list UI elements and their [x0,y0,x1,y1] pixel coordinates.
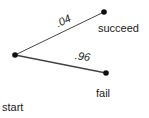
probability-fail: .96 [74,49,92,63]
label-start: start [2,101,23,113]
node-succeed [101,9,107,15]
node-start [12,52,18,58]
label-fail: fail [96,87,110,99]
label-succeed: succeed [98,22,139,34]
probability-tree-diagram: .04 .96 succeed fail start [0,0,149,118]
node-fail [103,70,109,76]
probability-succeed: .04 [54,12,73,29]
edge-start-fail [15,55,106,73]
